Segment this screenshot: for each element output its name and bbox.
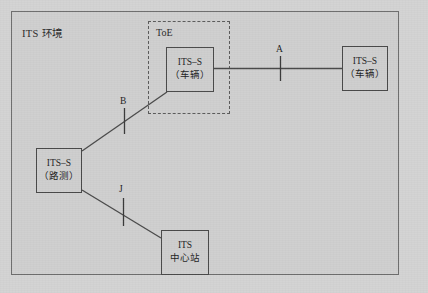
its-environment-label: ITS 环境 — [22, 25, 62, 40]
diagram-canvas: ITS 环境 ToE ITS–S （车辆） ITS–S （车辆） ITS–S （… — [0, 0, 428, 293]
node-label-line2: （车辆） — [345, 69, 385, 81]
node-label-line2: 中心站 — [170, 253, 200, 265]
node-label-line2: （路测） — [39, 171, 79, 183]
node-label-line1: ITS — [178, 240, 192, 252]
toe-label: ToE — [156, 27, 173, 38]
interface-label-b: B — [120, 96, 126, 106]
node-its-s-vehicle-toe[interactable]: ITS–S （车辆） — [166, 47, 214, 92]
node-label-line1: ITS–S — [353, 56, 377, 68]
node-label-line1: ITS–S — [47, 158, 71, 170]
node-label-line1: ITS–S — [178, 57, 202, 69]
node-its-s-roadside[interactable]: ITS–S （路测） — [36, 148, 82, 193]
node-label-line2: （车辆） — [170, 70, 210, 82]
interface-label-a: A — [276, 44, 283, 54]
node-its-central-station[interactable]: ITS 中心站 — [161, 230, 209, 275]
node-its-s-vehicle[interactable]: ITS–S （车辆） — [342, 46, 388, 91]
interface-label-j: J — [119, 184, 123, 194]
